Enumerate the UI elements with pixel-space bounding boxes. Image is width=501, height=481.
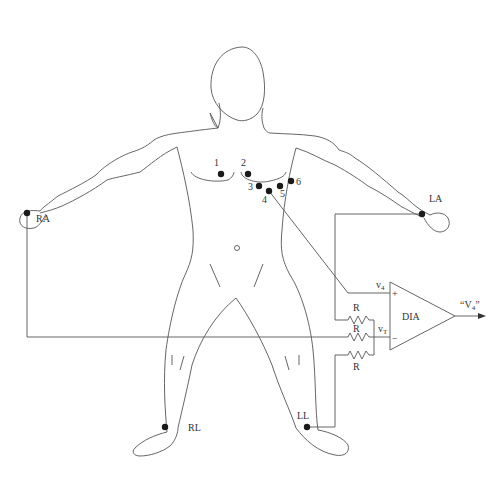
resistor-label-middle: R xyxy=(353,323,360,334)
ra-wire xyxy=(27,213,345,337)
electrode-la xyxy=(419,211,425,217)
body-outline xyxy=(20,103,450,456)
ll-wire xyxy=(307,355,345,427)
resistor-label-bottom: R xyxy=(353,361,360,372)
chest-electrodes: 1 2 3 4 5 6 xyxy=(214,157,301,205)
resistor-network: R R R xyxy=(345,302,372,372)
electrode-rl xyxy=(162,424,168,430)
label-la: LA xyxy=(429,193,443,204)
minus-input-label: vT xyxy=(378,323,388,336)
label-v2: 2 xyxy=(241,157,246,168)
electrode-v1 xyxy=(218,171,224,177)
label-v3: 3 xyxy=(248,181,253,192)
svg-text:−: − xyxy=(392,333,398,344)
label-v5: 5 xyxy=(280,188,285,199)
output-label: “V4” xyxy=(460,299,480,312)
label-v1: 1 xyxy=(214,157,219,168)
limb-electrodes: RA LA RL LL xyxy=(24,193,443,433)
label-ra: RA xyxy=(36,213,51,224)
electrode-v3 xyxy=(256,183,262,189)
label-rl: RL xyxy=(188,422,201,433)
ecg-diagram: R R R DIA + − v4 vT “V4” RA LA RL LL 1 2… xyxy=(0,0,501,481)
electrode-v6 xyxy=(288,178,294,184)
head-outline xyxy=(211,47,265,121)
v4-wire xyxy=(269,191,390,293)
differential-amplifier: DIA + − v4 vT “V4” xyxy=(376,279,486,350)
resistor-label-top: R xyxy=(353,302,360,313)
electrode-ll xyxy=(304,424,310,430)
la-wire xyxy=(335,214,422,320)
label-v4: 4 xyxy=(262,194,267,205)
label-v6: 6 xyxy=(296,176,301,187)
electrode-v2 xyxy=(245,171,251,177)
label-ll: LL xyxy=(297,410,309,421)
electrode-ra xyxy=(24,210,30,216)
output-arrow-icon xyxy=(478,313,486,319)
resistor-middle xyxy=(345,333,372,341)
resistor-bottom xyxy=(345,351,372,359)
plus-input-label: v4 xyxy=(376,279,385,292)
svg-text:+: + xyxy=(392,288,398,299)
amplifier-label: DIA xyxy=(402,311,421,322)
